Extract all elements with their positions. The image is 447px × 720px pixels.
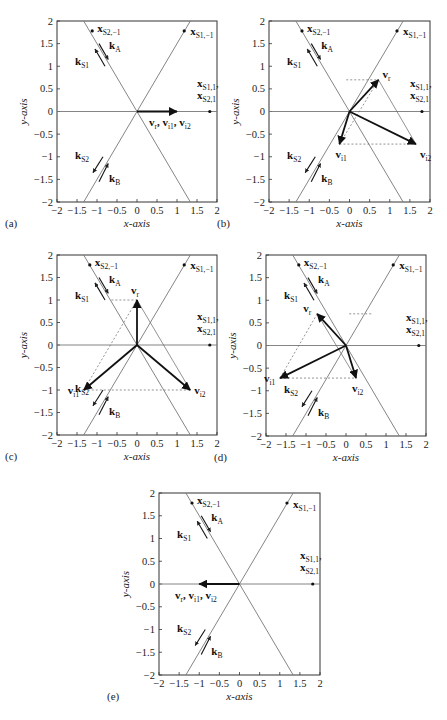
y-tick-label: 1.5 <box>142 510 155 521</box>
figure-canvas: −2−1.5−1−0.500.511.5221.510.50−0.5−1−1.5… <box>0 0 447 720</box>
panel-label: (b) <box>217 217 230 230</box>
k-a-arrow <box>99 44 108 60</box>
panel-label: (c) <box>5 450 18 463</box>
vector-v-i2 <box>137 345 190 390</box>
x-tick-label: 1.5 <box>399 439 412 450</box>
vector-v-i2 <box>346 346 356 379</box>
x-tick-label: 0.5 <box>359 439 372 450</box>
label-vr: vr <box>303 302 312 317</box>
x-tick-label: 1 <box>174 205 179 216</box>
combined-vector-label: vr, vi1, vi2 <box>149 116 191 131</box>
x-tick-label: −0.5 <box>107 438 126 449</box>
y-tick-label: 2 <box>257 250 262 261</box>
point-xs2-m1 <box>91 29 94 32</box>
k-s2-arrow <box>305 157 315 173</box>
point-xs1-m1 <box>285 501 288 504</box>
x-tick-label: −2 <box>51 205 62 216</box>
point-xs2-m1 <box>190 501 193 504</box>
y-tick-label: 1 <box>150 533 155 544</box>
y-tick-label: −2 <box>42 197 53 208</box>
x-tick-label: 0 <box>237 678 242 689</box>
x-tick-label: 1 <box>174 438 179 449</box>
label-kS1: kS1 <box>75 289 89 304</box>
y-tick-label: −1.5 <box>243 408 262 419</box>
label-xS2m1: xS2,−1 <box>95 256 119 271</box>
panel-b: −2−1.5−1−0.500.511.5221.510.50−0.5−1−1.5… <box>217 16 433 231</box>
vector-v-r <box>350 80 379 112</box>
y-tick-label: −2 <box>42 430 53 441</box>
point-xs1-m1 <box>183 29 186 32</box>
panel-d: −2−1.5−1−0.500.511.5221.510.50−0.5−1−1.5… <box>214 250 429 465</box>
y-tick-label: −2 <box>254 197 265 208</box>
y-tick-label: 0 <box>150 579 155 590</box>
y-tick-label: −0.5 <box>246 129 265 140</box>
point-xs1-1 <box>420 110 423 113</box>
point-xs1-1 <box>417 344 420 347</box>
y-tick-label: −1.5 <box>136 647 155 658</box>
y-tick-label: −1 <box>42 385 53 396</box>
label-xS1m1: xS1,−1 <box>190 259 214 274</box>
panel-c: −2−1.5−1−0.500.511.5221.510.50−0.5−1−1.5… <box>5 250 220 464</box>
y-tick-label: 1 <box>257 295 262 306</box>
point-xs2-m1 <box>300 29 303 32</box>
y-tick-label: −0.5 <box>34 129 53 140</box>
x-tick-label: −1 <box>194 678 205 689</box>
x-tick-label: −1 <box>300 439 311 450</box>
y-tick-label: −0.5 <box>243 363 262 374</box>
y-tick-label: −1 <box>144 624 155 635</box>
x-tick-label: 0 <box>134 438 139 449</box>
y-tick-label: −1 <box>42 151 53 162</box>
x-tick-label: −1 <box>91 205 102 216</box>
y-tick-label: 1 <box>260 61 265 72</box>
label-kS2: kS2 <box>177 622 191 637</box>
label-kA: kA <box>321 39 333 54</box>
vector-v-i1 <box>84 345 137 390</box>
y-tick-label: 1.5 <box>40 38 53 49</box>
x-tick-label: −1.5 <box>67 438 86 449</box>
y-tick-label: 1 <box>48 295 53 306</box>
k-b-arrow <box>311 164 320 182</box>
label-xS2m1: xS2,−1 <box>304 256 328 271</box>
y-tick-label: 0 <box>260 106 265 117</box>
x-axis-label: x-axis <box>335 217 362 229</box>
y-tick-label: 1.5 <box>252 38 265 49</box>
y-tick-label: 0.5 <box>142 556 155 567</box>
point-xs1-1 <box>208 343 211 346</box>
y-tick-label: 1 <box>48 61 53 72</box>
panel-label: (d) <box>214 451 227 464</box>
x-tick-label: −1 <box>91 438 102 449</box>
y-tick-label: 2 <box>260 16 265 27</box>
k-a-arrow <box>201 516 210 532</box>
x-axis-label: x-axis <box>225 690 252 702</box>
label-kS1: kS1 <box>177 528 191 543</box>
x-axis-label: x-axis <box>332 451 359 463</box>
x-tick-label: 0 <box>343 439 348 450</box>
label-vi1: vi1 <box>335 148 347 163</box>
y-tick-label: 1.5 <box>249 272 262 283</box>
x-tick-label: 1.5 <box>190 438 203 449</box>
x-tick-label: 1.5 <box>293 678 306 689</box>
y-tick-label: 1.5 <box>40 272 53 283</box>
label-kS1: kS1 <box>287 55 301 70</box>
panel-a: −2−1.5−1−0.500.511.5221.510.50−0.5−1−1.5… <box>5 16 220 231</box>
label-xS2m1: xS2,−1 <box>197 494 221 509</box>
x-tick-label: −2 <box>260 439 271 450</box>
panel-label: (e) <box>107 690 120 703</box>
x-axis-label: x-axis <box>123 217 150 229</box>
label-kB: kB <box>109 172 120 187</box>
x-tick-label: 0 <box>134 205 139 216</box>
point-xs1-1 <box>208 110 211 113</box>
panel-label: (a) <box>5 217 18 230</box>
y-tick-label: −0.5 <box>34 362 53 373</box>
vector-v-i1 <box>339 112 349 145</box>
y-tick-label: −1.5 <box>246 174 265 185</box>
label-vr: vr <box>131 284 140 299</box>
k-b-arrow <box>99 397 108 415</box>
x-tick-label: 0.5 <box>150 205 163 216</box>
label-kS1: kS1 <box>75 55 89 70</box>
y-tick-label: 2 <box>48 16 53 27</box>
construction-line <box>339 80 378 144</box>
y-tick-label: −1.5 <box>34 174 53 185</box>
y-tick-label: 0.5 <box>252 83 265 94</box>
x-tick-label: 0.5 <box>150 438 163 449</box>
